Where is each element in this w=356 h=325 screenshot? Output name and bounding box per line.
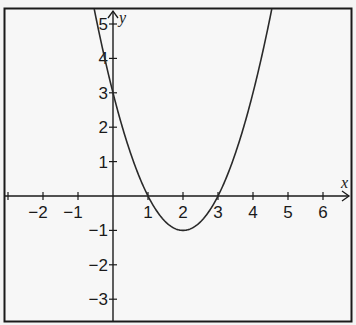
x-tick-label: −1 [63,203,82,222]
x-tick-label: 3 [213,203,222,222]
x-tick-label: 4 [248,203,257,222]
x-axis-label: x [340,174,348,191]
y-tick-label: 2 [99,118,108,137]
plot-frame [5,9,352,322]
y-axis-label: y [117,9,127,27]
x-tick-label: 1 [143,203,152,222]
graph: −2−112345654321−1−2−3 x y [0,0,356,325]
x-tick-label: −2 [28,203,47,222]
y-tick-label: −1 [89,221,108,240]
y-tick-label: 5 [99,15,108,34]
y-tick-label: 3 [99,84,108,103]
y-tick-label: −3 [89,290,108,309]
y-tick-label: −2 [89,256,108,275]
y-tick-label: 1 [99,153,108,172]
x-tick-label: 5 [283,203,292,222]
x-tick-label: 6 [318,203,327,222]
x-tick-label: 2 [178,203,187,222]
